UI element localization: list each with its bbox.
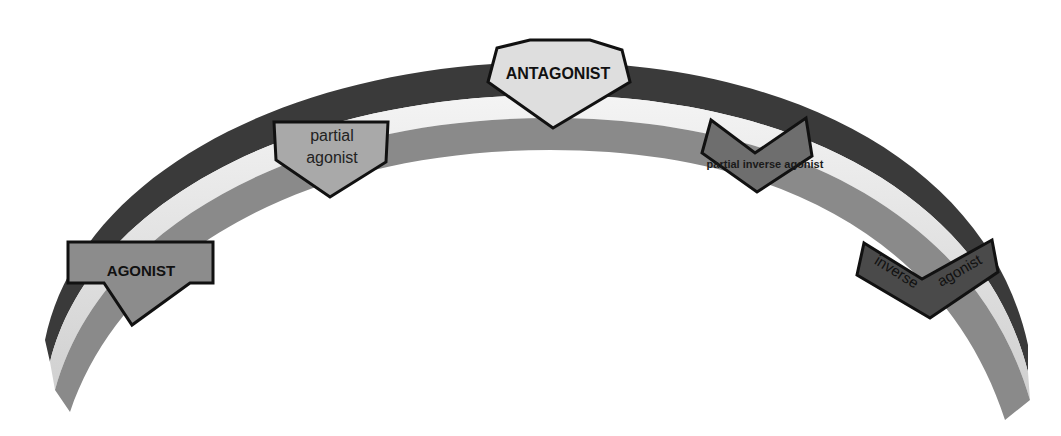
agonist-label: AGONIST bbox=[107, 262, 175, 279]
partial-agonist-label-line1: partial bbox=[310, 127, 354, 144]
partial-agonist-label-line2: agonist bbox=[306, 149, 358, 166]
antagonist-label: ANTAGONIST bbox=[506, 65, 611, 82]
receptor-activity-diagram: AGONIST partial agonist ANTAGONIST parti… bbox=[0, 0, 1061, 436]
partial-inverse-agonist-label: partial inverse agonist bbox=[707, 158, 824, 170]
